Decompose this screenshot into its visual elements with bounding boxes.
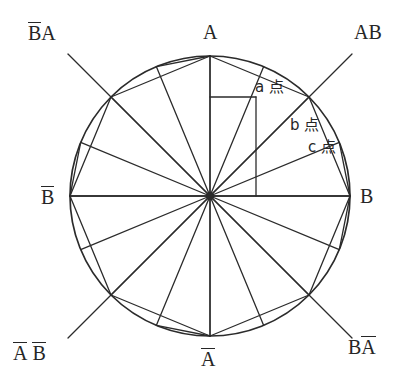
chord-sw225-to-ab bbox=[111, 295, 210, 336]
chord-nw135-to-bb bbox=[70, 97, 111, 196]
overline-b: B bbox=[41, 186, 54, 207]
vertex-label-top: A bbox=[203, 22, 217, 42]
spoke-135 bbox=[111, 97, 210, 196]
chord-ab-to-se315 bbox=[210, 295, 309, 336]
vertex-label-left: B bbox=[41, 186, 54, 207]
corner-br-plain: B bbox=[348, 336, 361, 358]
inner-rectangle bbox=[210, 97, 256, 196]
chord-b-to-se337 bbox=[339, 196, 350, 250]
overline-a-br: A bbox=[361, 336, 375, 357]
overline-a: A bbox=[201, 348, 215, 369]
chord-a-to-nw112 bbox=[156, 56, 210, 67]
chord-bb-to-sw225 bbox=[70, 196, 111, 295]
chord-b-to-ne22 bbox=[339, 142, 350, 196]
chord-nw135-to-a bbox=[111, 56, 210, 97]
annotation-point-a: a 点 bbox=[255, 80, 284, 95]
corner-label-top-left: BA bbox=[28, 22, 56, 43]
corner-label-bottom-left: AB bbox=[13, 342, 46, 363]
overline-b-bl: B bbox=[32, 342, 45, 363]
center-dot bbox=[206, 192, 214, 200]
spoke-225 bbox=[111, 196, 210, 295]
corner-tl-plain: A bbox=[41, 22, 55, 44]
spoke-45 bbox=[210, 97, 309, 196]
chord-ab-to-sw247 bbox=[156, 325, 210, 336]
corner-label-top-right: AB bbox=[354, 22, 382, 42]
figure-canvas: A B A B BA AB AB BA a 点 b 点 c 点 bbox=[0, 0, 415, 390]
spoke-315 bbox=[210, 196, 309, 295]
chord-bb-to-nw157 bbox=[70, 142, 81, 196]
diagram-strokes bbox=[68, 54, 352, 338]
annotation-point-b: b 点 bbox=[290, 118, 319, 133]
geometry-diagram bbox=[0, 0, 415, 390]
overline-b-tl: B bbox=[28, 22, 41, 43]
overline-a-bl: A bbox=[13, 342, 27, 363]
vertex-label-right: B bbox=[360, 186, 373, 206]
vertex-label-bottom: A bbox=[201, 348, 215, 369]
corner-label-bottom-right: BA bbox=[348, 336, 376, 357]
annotation-point-c: c 点 bbox=[308, 140, 336, 155]
chord-se315-to-b bbox=[309, 196, 350, 295]
